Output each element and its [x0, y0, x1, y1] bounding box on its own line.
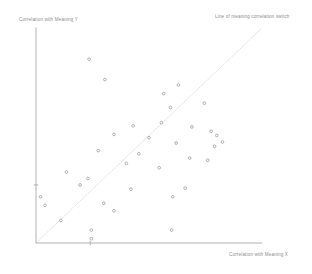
y-axis-label: Correlation with Meaning Y: [19, 18, 78, 23]
data-point: [191, 126, 194, 129]
data-point: [44, 204, 47, 207]
data-point: [88, 58, 91, 61]
data-point: [148, 136, 151, 139]
data-point: [39, 195, 42, 198]
data-point: [104, 78, 107, 81]
data-point: [177, 84, 180, 87]
data-point: [170, 229, 173, 232]
diagonal-reference-line: [36, 28, 262, 243]
data-point: [125, 162, 128, 165]
data-point: [215, 134, 218, 137]
data-point: [171, 195, 174, 198]
data-point: [169, 106, 172, 109]
scatter-chart: Correlation with Meaning Y Correlation w…: [0, 0, 312, 274]
data-points-group: [39, 58, 224, 240]
data-point: [132, 124, 135, 127]
data-point: [65, 171, 68, 174]
x-axis-label: Correlation with Meaning X: [229, 253, 288, 258]
reference-line: [36, 28, 262, 243]
data-point: [184, 187, 187, 190]
data-point: [79, 184, 82, 187]
data-point: [90, 237, 93, 240]
data-point: [188, 157, 191, 160]
data-point: [130, 188, 133, 191]
data-point: [213, 145, 216, 148]
data-point: [87, 177, 90, 180]
data-point: [97, 149, 100, 152]
data-point: [221, 141, 224, 144]
data-point: [113, 133, 116, 136]
data-point: [102, 202, 105, 205]
data-point: [206, 159, 209, 162]
data-point: [203, 102, 206, 105]
plot-area: [0, 0, 312, 274]
data-point: [158, 166, 161, 169]
data-point: [113, 209, 116, 212]
data-point: [175, 142, 178, 145]
reference-line-annotation-label: Line of meaning correlation switch: [215, 15, 290, 20]
data-point: [137, 152, 140, 155]
data-point: [162, 92, 165, 95]
data-point: [210, 130, 213, 133]
data-point: [90, 229, 93, 232]
